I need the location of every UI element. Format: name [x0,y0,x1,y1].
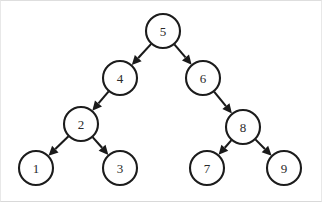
node-layer: 546281379 [19,14,301,185]
node-label: 7 [204,161,211,176]
tree-edge-2-to-1 [49,136,69,156]
node-label: 2 [78,117,85,132]
tree-edge-5-to-6 [174,44,191,64]
node-label: 9 [281,161,288,176]
tree-edge-6-to-8 [214,92,232,114]
tree-edge-8-to-9 [255,139,271,155]
node-label: 8 [240,120,247,135]
tree-edge-8-to-7 [219,140,232,155]
tree-edge-5-to-4 [132,44,151,65]
tree-node-4[interactable]: 4 [103,61,137,95]
tree-diagram-canvas: 546281379 [0,0,322,202]
node-label: 5 [160,24,167,39]
tree-node-6[interactable]: 6 [186,61,220,95]
tree-node-1[interactable]: 1 [19,151,53,185]
node-label: 4 [117,71,124,86]
node-label: 6 [200,71,207,86]
tree-node-3[interactable]: 3 [103,151,137,185]
tree-node-2[interactable]: 2 [64,107,98,141]
tree-edge-4-to-2 [92,91,108,110]
node-label: 1 [33,161,40,176]
tree-edge-2-to-3 [93,137,109,155]
node-label: 3 [117,161,124,176]
tree-node-5[interactable]: 5 [146,14,180,48]
tree-node-8[interactable]: 8 [226,110,260,144]
tree-node-7[interactable]: 7 [190,151,224,185]
binary-tree-figure: 546281379 [0,0,322,202]
tree-node-9[interactable]: 9 [267,151,301,185]
